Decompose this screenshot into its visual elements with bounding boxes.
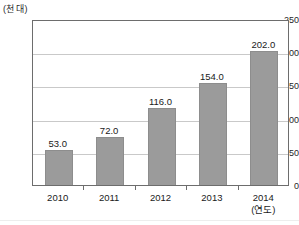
x-tick-mark-3 bbox=[238, 186, 239, 190]
bar-2014 bbox=[250, 51, 278, 185]
bar-value-2010: 53.0 bbox=[28, 138, 88, 149]
bar-value-2011: 72.0 bbox=[79, 125, 139, 136]
bar-2012 bbox=[148, 108, 176, 185]
y-axis-unit-label: (천 대) bbox=[3, 2, 28, 15]
bar-chart-figure: (천 대) 050100150200250 53.072.0116.0154.0… bbox=[0, 0, 299, 225]
bar-2011 bbox=[96, 137, 124, 185]
bar-value-2014: 202.0 bbox=[233, 39, 293, 50]
page-bottom-rule bbox=[0, 220, 299, 221]
x-tick-mark-2 bbox=[186, 186, 187, 190]
x-tick-mark-1 bbox=[135, 186, 136, 190]
bar-2010 bbox=[45, 150, 73, 185]
x-axis-unit-label: (연도) bbox=[233, 204, 293, 216]
bar-2013 bbox=[199, 83, 227, 185]
bar-value-2012: 116.0 bbox=[131, 96, 191, 107]
bar-value-2013: 154.0 bbox=[182, 71, 242, 82]
x-tick-mark-0 bbox=[83, 186, 84, 190]
x-category-label-2014: 2014(연도) bbox=[233, 192, 293, 216]
